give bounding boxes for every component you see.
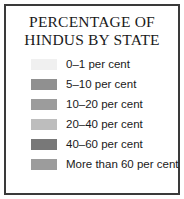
legend-item-list: 0–1 per cent 5–10 per cent 10–20 per cen… (6, 48, 178, 174)
legend-color-swatch (31, 159, 57, 170)
legend-color-swatch (31, 139, 57, 150)
legend-item-label: More than 60 per cent (66, 158, 179, 170)
legend-item: 0–1 per cent (6, 54, 178, 74)
legend-item: More than 60 per cent (6, 154, 178, 174)
legend-item: 40–60 per cent (6, 134, 178, 154)
legend-item-label: 10–20 per cent (66, 98, 143, 110)
legend-title-line-1: PERCENTAGE OF (6, 13, 178, 31)
legend-color-swatch (31, 59, 57, 70)
legend-title: PERCENTAGE OF HINDUS BY STATE (6, 6, 178, 48)
legend-item: 5–10 per cent (6, 74, 178, 94)
legend-title-line-2: HINDUS BY STATE (6, 31, 178, 49)
legend-color-swatch (31, 99, 57, 110)
legend-item-label: 40–60 per cent (66, 138, 143, 150)
legend-item-label: 5–10 per cent (66, 78, 136, 90)
legend-item-label: 0–1 per cent (66, 58, 130, 70)
legend-color-swatch (31, 119, 57, 130)
legend-item: 20–40 per cent (6, 114, 178, 134)
legend-item-label: 20–40 per cent (66, 118, 143, 130)
legend-item: 10–20 per cent (6, 94, 178, 114)
legend-color-swatch (31, 79, 57, 90)
map-legend-panel: PERCENTAGE OF HINDUS BY STATE 0–1 per ce… (4, 4, 180, 195)
